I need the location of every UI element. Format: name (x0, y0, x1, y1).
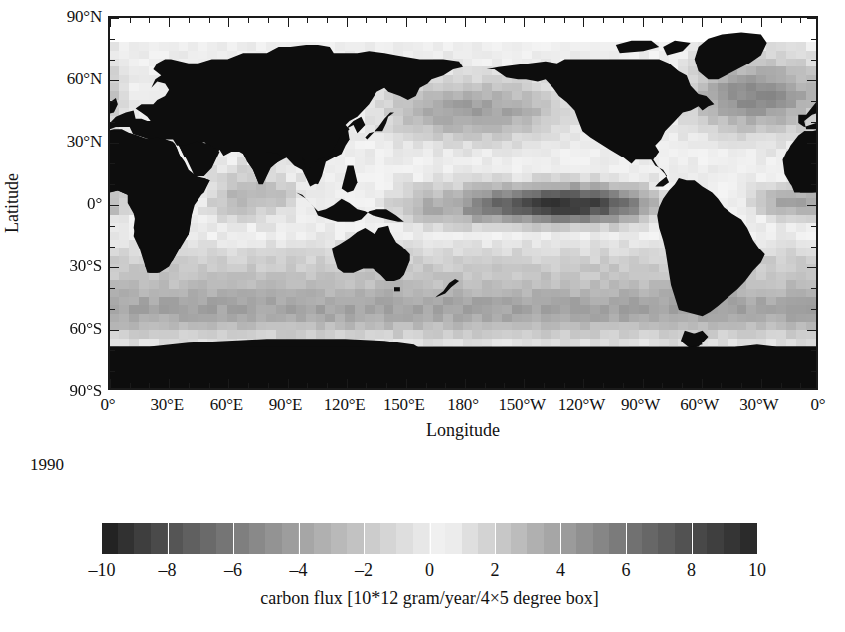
axis-tick (807, 80, 816, 81)
axis-tick (406, 379, 407, 388)
axis-tick (603, 383, 604, 388)
map-raster (110, 18, 816, 388)
axis-tick (149, 18, 150, 23)
colorbar-tick (364, 523, 365, 554)
axis-tick (800, 18, 801, 23)
colorbar-tick-label: –2 (355, 560, 373, 581)
axis-tick (807, 18, 816, 19)
colorbar-tick (233, 523, 234, 554)
axis-tick (662, 18, 663, 23)
axis-tick (761, 18, 762, 27)
axis-tick (327, 18, 328, 23)
axis-tick (248, 18, 249, 23)
axis-tick (426, 18, 427, 23)
colorbar-tick (168, 523, 169, 554)
longitude-tick-label: 0° (811, 396, 826, 413)
axis-tick (662, 383, 663, 388)
colorbar-tick (495, 523, 496, 554)
axis-tick (130, 383, 131, 388)
axis-tick (721, 383, 722, 388)
colorbar-tick-label: –6 (224, 560, 242, 581)
axis-tick (564, 18, 565, 23)
axis-tick (524, 379, 525, 388)
axis-tick (110, 226, 115, 227)
longitude-tick-label: 120°E (324, 396, 366, 413)
axis-tick (110, 371, 115, 372)
colorbar-title: carbon flux [10*12 gram/year/4×5 degree … (102, 588, 757, 609)
axis-tick (386, 383, 387, 388)
axis-tick (761, 379, 762, 388)
axis-tick (721, 18, 722, 23)
axis-tick (288, 379, 289, 388)
carbon-flux-figure: 0°30°E60°E90°E120°E150°E180°150°W120°W90… (0, 0, 845, 632)
y-axis-title: Latitude (2, 173, 23, 233)
axis-tick (781, 18, 782, 23)
axis-tick (426, 383, 427, 388)
axis-tick (228, 18, 229, 27)
axis-tick (623, 18, 624, 23)
colorbar-tick-label: 10 (748, 560, 766, 581)
axis-tick (366, 18, 367, 23)
colorbar-tick (299, 523, 300, 554)
longitude-tick-label: 30°E (150, 396, 183, 413)
colorbar-tick-label: 4 (556, 560, 565, 581)
axis-tick (583, 379, 584, 388)
axis-tick (811, 288, 816, 289)
axis-tick (110, 247, 115, 248)
longitude-tick-label: 150°W (498, 396, 545, 413)
axis-tick (110, 39, 115, 40)
axis-tick (811, 122, 816, 123)
axis-tick (110, 379, 111, 388)
axis-tick (811, 163, 816, 164)
axis-tick (110, 18, 119, 19)
longitude-tick-label: 180° (447, 396, 479, 413)
longitude-tick-label: 60°W (680, 396, 719, 413)
latitude-tick-label: 30°N (67, 132, 102, 149)
axis-tick (811, 226, 816, 227)
axis-tick (811, 101, 816, 102)
axis-tick (110, 205, 119, 206)
axis-tick (149, 383, 150, 388)
axis-tick (682, 383, 683, 388)
axis-tick (189, 383, 190, 388)
longitude-tick-label: 150°E (383, 396, 425, 413)
axis-tick (268, 383, 269, 388)
axis-tick (583, 18, 584, 27)
axis-tick (445, 18, 446, 23)
axis-tick (110, 101, 115, 102)
colorbar-tick-label: 8 (687, 560, 696, 581)
longitude-tick-label: 90°E (269, 396, 302, 413)
axis-tick (130, 18, 131, 23)
axis-tick (110, 330, 119, 331)
axis-tick (504, 383, 505, 388)
axis-tick (811, 371, 816, 372)
axis-tick (248, 383, 249, 388)
axis-tick (524, 18, 525, 27)
axis-tick (110, 18, 111, 27)
axis-tick (209, 18, 210, 23)
latitude-tick-label: 90°S (70, 382, 102, 399)
axis-tick (682, 18, 683, 23)
axis-tick (110, 163, 115, 164)
year-annotation: 1990 (30, 455, 64, 475)
axis-tick (445, 383, 446, 388)
axis-tick (169, 379, 170, 388)
axis-tick (110, 350, 115, 351)
x-axis-title: Longitude (108, 420, 818, 441)
axis-tick (643, 379, 644, 388)
axis-tick (110, 80, 119, 81)
axis-tick (564, 383, 565, 388)
colorbar-tick-label: 0 (425, 560, 434, 581)
axis-tick (366, 383, 367, 388)
axis-tick (741, 383, 742, 388)
axis-tick (485, 18, 486, 23)
axis-tick (288, 18, 289, 27)
longitude-tick-label: 0° (101, 396, 116, 413)
colorbar-tick (430, 523, 431, 554)
longitude-tick-label: 60°E (210, 396, 243, 413)
axis-tick (811, 39, 816, 40)
axis-tick (811, 350, 816, 351)
axis-tick (465, 379, 466, 388)
colorbar-tick (560, 523, 561, 554)
colorbar-tick-label: –4 (290, 560, 308, 581)
